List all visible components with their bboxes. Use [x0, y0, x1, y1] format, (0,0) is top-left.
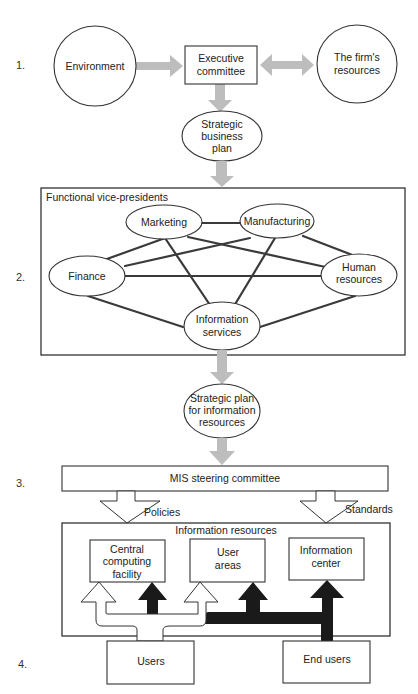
business-plan-label-line2: business [201, 130, 242, 142]
information-center-node: Information center [289, 538, 364, 580]
step-number-4: 4. [18, 658, 27, 670]
users-node: Users [107, 641, 194, 684]
information-resources-title: Information resources [175, 524, 277, 536]
arrow-environment-to-executive [136, 55, 183, 77]
ccf-label-line2: computing [103, 555, 152, 567]
strategic-plan-info-node: Strategic plan for information resources [184, 384, 260, 438]
end-users-solid-arrows [138, 580, 344, 641]
user-areas-label-line1: User [217, 546, 240, 558]
step-number-1: 1. [16, 59, 25, 71]
manufacturing-label: Manufacturing [244, 215, 311, 227]
arrow-executive-firm-resources [260, 54, 314, 76]
finance-node: Finance [49, 256, 125, 296]
information-services-label-line2: services [203, 326, 242, 338]
functional-vps-title: Functional vice-presidents [46, 191, 168, 203]
central-computing-facility-node: Central computing facility [90, 540, 165, 582]
arrow-business-plan-to-vps [210, 161, 234, 187]
info-plan-label-line1: Strategic plan [190, 392, 254, 404]
manufacturing-node: Manufacturing [240, 204, 314, 238]
executive-committee-node: Executive committee [185, 46, 257, 84]
finance-label: Finance [68, 270, 106, 282]
environment-node: Environment [54, 26, 136, 106]
information-center-label-line1: Information [300, 544, 353, 556]
information-services-node: Information services [184, 302, 260, 350]
information-services-label-line1: Information [196, 313, 249, 325]
executive-committee-label-line2: committee [197, 65, 246, 77]
ccf-label-line1: Central [110, 543, 144, 555]
end-users-label: End users [303, 653, 350, 665]
firms-resources-node: The firm's resources [317, 25, 397, 103]
info-plan-label-line3: resources [199, 416, 245, 428]
firms-resources-label-line1: The firm's [334, 51, 380, 63]
mis-planning-diagram: 1. 2. 3. 4. Environment Executive commit… [0, 0, 418, 694]
human-resources-node: Human resources [321, 254, 397, 296]
information-center-label-line2: center [311, 557, 341, 569]
users-label: Users [137, 655, 164, 667]
user-areas-label-line2: areas [215, 559, 241, 571]
user-areas-node: User areas [190, 539, 265, 582]
business-plan-label-line3: plan [212, 142, 232, 154]
info-plan-label-line2: for information [188, 404, 255, 416]
business-plan-label-line1: Strategic [201, 118, 242, 130]
executive-committee-label-line1: Executive [198, 52, 244, 64]
arrow-info-plan-to-mis [209, 438, 235, 465]
arrow-executive-to-business-plan [208, 84, 232, 112]
end-users-node: End users [283, 641, 370, 683]
human-resources-label-line1: Human [342, 261, 376, 273]
firms-resources-label-line2: resources [334, 64, 380, 76]
step-number-2: 2. [16, 271, 25, 283]
strategic-business-plan-node: Strategic business plan [182, 111, 262, 161]
standards-label: Standards [345, 503, 393, 515]
policies-label: Policies [144, 506, 180, 518]
human-resources-label-line2: resources [336, 273, 382, 285]
marketing-node: Marketing [126, 205, 202, 239]
mis-steering-committee-node: MIS steering committee [62, 466, 388, 491]
mis-steering-committee-label: MIS steering committee [170, 472, 280, 484]
environment-label: Environment [66, 60, 125, 72]
marketing-label: Marketing [141, 216, 187, 228]
standards-arrow: Standards [300, 491, 393, 523]
step-number-3: 3. [16, 477, 25, 489]
policies-arrow: Policies [100, 491, 180, 523]
ccf-label-line3: facility [112, 568, 142, 580]
